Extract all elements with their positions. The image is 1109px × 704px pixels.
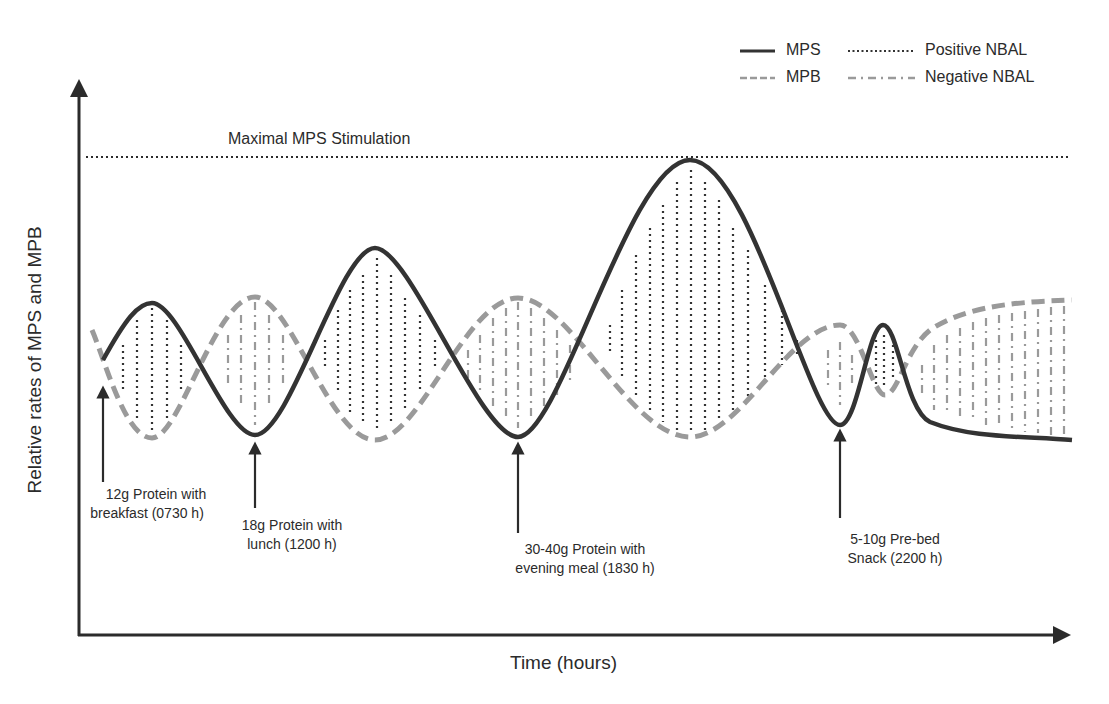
dinner-annotation: 30-40g Protein with evening meal (1830 h… <box>490 540 680 578</box>
snack-annotation-line1: 5-10g Pre-bed <box>835 530 955 549</box>
legend-negative-nbal-label: Negative NBAL <box>925 68 1034 86</box>
chart-canvas <box>0 0 1109 704</box>
dinner-annotation-line2: evening meal (1830 h) <box>490 559 680 578</box>
x-axis-title: Time (hours) <box>510 652 617 674</box>
legend-positive-nbal-label: Positive NBAL <box>925 41 1027 59</box>
snack-annotation: 5-10g Pre-bed Snack (2200 h) <box>835 530 955 568</box>
snack-annotation-line2: Snack (2200 h) <box>835 549 955 568</box>
legend-mpb-label: MPB <box>786 68 821 86</box>
lunch-annotation-line1: 18g Protein with <box>232 516 352 535</box>
breakfast-annotation: 12g Protein with breakfast (0730 h) <box>86 485 226 523</box>
dinner-annotation-line1: 30-40g Protein with <box>490 540 680 559</box>
maximal-mps-label: Maximal MPS Stimulation <box>228 130 410 148</box>
lunch-annotation: 18g Protein with lunch (1200 h) <box>232 516 352 554</box>
breakfast-annotation-line2: breakfast (0730 h) <box>68 504 226 523</box>
legend-swatches <box>740 51 915 78</box>
breakfast-annotation-line1: 12g Protein with <box>86 485 226 504</box>
legend-mps-label: MPS <box>786 41 821 59</box>
y-axis-title: Relative rates of MPS and MPB <box>24 226 46 493</box>
lunch-annotation-line2: lunch (1200 h) <box>232 535 352 554</box>
